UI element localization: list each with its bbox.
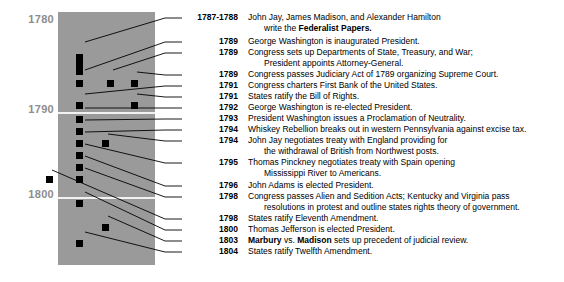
entry-year: 1798 xyxy=(186,191,238,202)
entry-year: 1798 xyxy=(186,213,238,224)
entry-year: 1794 xyxy=(186,135,238,146)
entry-description: George Washington is inaugurated Preside… xyxy=(248,36,562,47)
entry-description-line1: Thomas Pinckney negotiates treaty with S… xyxy=(248,157,455,167)
entry-description: John Jay, James Madison, and Alexander H… xyxy=(248,12,562,34)
entry-description-line2: write the Federalist Papers. xyxy=(248,23,562,34)
marker-1798-alien-sedition xyxy=(76,176,83,183)
entry-description: Congress passes Judiciary Act of 1789 or… xyxy=(248,69,562,80)
entry-description-line1: Congress sets up Departments of State, T… xyxy=(248,47,473,57)
marker-1794-whiskey xyxy=(76,140,83,147)
entry-description: Congress charters First Bank of the Unit… xyxy=(248,80,562,91)
entry-description: Thomas Pinckney negotiates treaty with S… xyxy=(248,157,562,179)
marker-1800-jefferson xyxy=(76,200,83,207)
entry-case-name-1: Marbury xyxy=(248,235,282,245)
marker-1798-eleventh xyxy=(46,176,53,183)
entry-description: States ratify the Bill of Rights. xyxy=(248,91,562,102)
entry-year: 1793 xyxy=(186,113,238,124)
entry-description-line1: Congress passes Judiciary Act of 1789 or… xyxy=(248,69,498,79)
entry-line2-emphasis: Federalist Papers. xyxy=(299,23,372,33)
decade-gridline-1790 xyxy=(58,112,155,114)
decade-gridline-1800 xyxy=(58,197,155,199)
entry-description-line2: Mississippi River to Americans. xyxy=(248,168,562,179)
entry-year: 1804 xyxy=(186,246,238,257)
entry-description-line1: John Adams is elected President. xyxy=(248,180,374,190)
entry-year: 1791 xyxy=(186,91,238,102)
entry-case-name-2: Madison xyxy=(297,235,331,245)
entry-line2-pre: President appoints Attorney-General. xyxy=(264,58,403,68)
entry-description-line1: States ratify Twelfth Amendment. xyxy=(248,246,372,256)
entry-description-line1: States ratify Eleventh Amendment. xyxy=(248,213,378,223)
marker-1804-twelfth xyxy=(76,240,83,247)
year-axis-label: 1800 xyxy=(28,188,54,200)
entry-line2-pre: write the xyxy=(264,23,299,33)
entry-description-line1: Congress passes Alien and Sedition Acts;… xyxy=(248,191,510,201)
entry-year: 1791 xyxy=(186,80,238,91)
entry-description: Congress passes Alien and Sedition Acts;… xyxy=(248,191,562,213)
entry-description: Marbury vs. Madison sets up precedent of… xyxy=(248,235,562,246)
entry-description-line1: Congress charters First Bank of the Unit… xyxy=(248,80,437,90)
marker-1794-jay-treaty xyxy=(102,140,109,147)
entry-description: Thomas Jefferson is elected President. xyxy=(248,224,562,235)
entry-description: States ratify Eleventh Amendment. xyxy=(248,213,562,224)
entry-description: President Washington issues a Proclamati… xyxy=(248,113,562,124)
entry-year: 1792 xyxy=(186,102,238,113)
entry-text-post: sets up precedent of judicial review. xyxy=(332,235,469,245)
marker-1795-pinckney xyxy=(76,152,83,159)
entry-description-line1: States ratify the Bill of Rights. xyxy=(248,91,359,101)
marker-1787-1788 xyxy=(76,54,83,75)
entry-text-mid: vs. xyxy=(282,235,298,245)
year-axis-label: 1790 xyxy=(28,103,54,115)
entry-line2-pre: resolutions in protest and outline state… xyxy=(264,202,520,212)
entry-description-line1: George Washington is inaugurated Preside… xyxy=(248,36,420,46)
entry-description: Congress sets up Departments of State, T… xyxy=(248,47,562,69)
entry-description-line1: John Jay negotiates treaty with England … xyxy=(248,135,447,145)
entry-line2-pre: Mississippi River to Americans. xyxy=(264,168,381,178)
year-axis-label: 1780 xyxy=(28,13,54,25)
marker-1789-inauguration xyxy=(76,80,83,87)
marker-1792-reelected xyxy=(76,116,83,123)
entry-description: John Adams is elected President. xyxy=(248,180,562,191)
entry-description-line2: the withdrawal of British from Northwest… xyxy=(248,146,562,157)
timeline-figure: 178017901800 1787-1788John Jay, James Ma… xyxy=(0,0,564,282)
entry-description-line1: Thomas Jefferson is elected President. xyxy=(248,224,395,234)
entry-description-line1: Whiskey Rebellion breaks out in western … xyxy=(248,124,526,134)
entry-description-line1: John Jay, James Madison, and Alexander H… xyxy=(248,12,441,22)
entry-year: 1794 xyxy=(186,124,238,135)
marker-1789-judiciary xyxy=(131,80,138,87)
marker-1789-departments xyxy=(107,80,114,87)
marker-1791-bill-of-rights xyxy=(131,102,138,109)
entry-year: 1789 xyxy=(186,36,238,47)
entry-description-line1: George Washington is re-elected Presiden… xyxy=(248,102,413,112)
entry-year: 1795 xyxy=(186,157,238,168)
marker-1803-marbury xyxy=(102,224,109,231)
year-axis: 178017901800 xyxy=(0,0,58,282)
entry-year: 1796 xyxy=(186,180,238,191)
entry-description: Whiskey Rebellion breaks out in western … xyxy=(248,124,562,135)
entry-description: George Washington is re-elected Presiden… xyxy=(248,102,562,113)
timeline-panel xyxy=(58,12,155,265)
marker-1793-neutrality xyxy=(76,128,83,135)
entry-description-line2: resolutions in protest and outline state… xyxy=(248,202,562,213)
entry-description: John Jay negotiates treaty with England … xyxy=(248,135,562,157)
entry-description-line2: President appoints Attorney-General. xyxy=(248,58,562,69)
entry-description: States ratify Twelfth Amendment. xyxy=(248,246,562,257)
marker-1796-adams xyxy=(76,164,83,171)
entry-year: 1789 xyxy=(186,47,238,58)
entry-year: 1800 xyxy=(186,224,238,235)
entry-description-line1: President Washington issues a Proclamati… xyxy=(248,113,466,123)
entry-year: 1803 xyxy=(186,235,238,246)
marker-1791-bank xyxy=(76,102,83,109)
entry-year: 1787-1788 xyxy=(186,12,238,23)
entry-year: 1789 xyxy=(186,69,238,80)
entry-line2-pre: the withdrawal of British from Northwest… xyxy=(264,146,439,156)
